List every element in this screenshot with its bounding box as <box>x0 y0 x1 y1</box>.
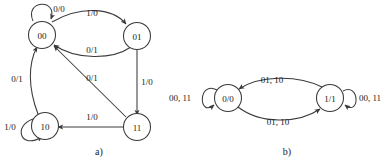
state-label-00: 00 <box>38 31 48 41</box>
edge-label-s00-s01: 1/0 <box>86 8 98 18</box>
edge-label-s11-s00: 0/1 <box>86 73 98 83</box>
state-label-11: 11 <box>133 123 142 133</box>
state-label-10: 10 <box>41 122 51 132</box>
state-label-1-1: 1/1 <box>324 94 336 104</box>
edge-label-n00-n00: 00, 11 <box>169 93 191 103</box>
edge-label-s10-s00: 0/1 <box>11 74 23 84</box>
state-diagram-svg: 0/0 1/0 0/1 1/0 0/1 1/0 0/1 1/0 <box>0 0 389 165</box>
figure-canvas: 0/0 1/0 0/1 1/0 0/1 1/0 0/1 1/0 <box>0 0 389 165</box>
edge-n11-n11 <box>343 90 356 108</box>
state-label-01: 01 <box>133 32 142 42</box>
edge-label-s11-s10: 1/0 <box>86 112 98 122</box>
edge-label-n11-n00: 01, 10 <box>261 75 284 85</box>
diagram-a: 0/0 1/0 0/1 1/0 0/1 1/0 0/1 1/0 <box>4 4 153 158</box>
edge-s10-s00 <box>30 47 38 114</box>
edge-label-s01-s00: 0/1 <box>86 45 98 55</box>
edge-label-s01-s11: 1/0 <box>141 77 153 87</box>
caption-b: b) <box>283 146 291 158</box>
diagram-b: 00, 11 01, 10 01, 10 00, 11 0/0 1/1 b) <box>169 75 381 158</box>
state-label-0-0: 0/0 <box>222 94 234 104</box>
edge-label-s00-s00: 0/0 <box>53 4 65 14</box>
edge-label-n00-n11: 01, 10 <box>267 117 290 127</box>
caption-a: a) <box>95 146 103 158</box>
edge-label-s10-s10: 1/0 <box>4 122 16 132</box>
edge-s00-s00 <box>31 4 51 21</box>
edge-label-n11-n11: 00, 11 <box>359 93 381 103</box>
